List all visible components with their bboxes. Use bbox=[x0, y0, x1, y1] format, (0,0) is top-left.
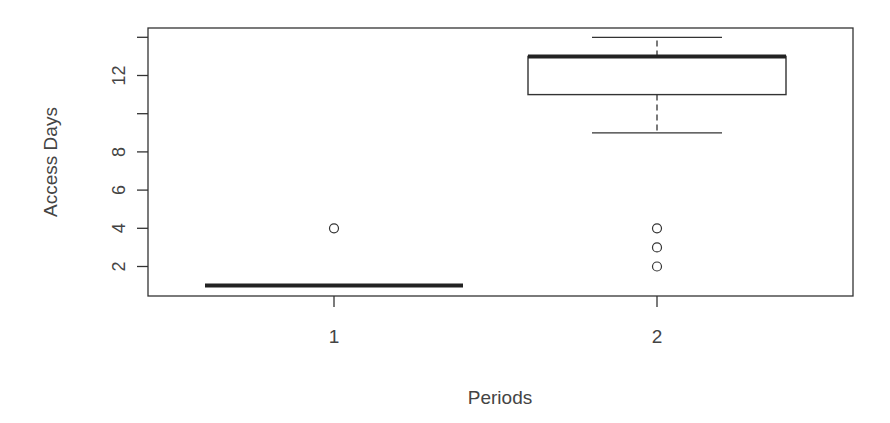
y-tick-label: 12 bbox=[109, 65, 129, 85]
boxplot-chart: 24681212 Periods Access Days bbox=[0, 0, 890, 423]
outlier-point bbox=[653, 224, 662, 233]
x-tick-label: 2 bbox=[652, 326, 663, 347]
x-axis-label: Periods bbox=[468, 387, 532, 408]
plot-area: 24681212 bbox=[109, 28, 853, 347]
y-tick-label: 6 bbox=[109, 185, 129, 195]
y-tick-label: 4 bbox=[109, 223, 129, 233]
outlier-point bbox=[653, 262, 662, 271]
y-axis-label: Access Days bbox=[40, 107, 61, 217]
y-tick-label: 8 bbox=[109, 147, 129, 157]
plot-frame bbox=[148, 28, 853, 296]
outlier-point bbox=[330, 224, 339, 233]
box bbox=[528, 56, 786, 94]
outlier-point bbox=[653, 243, 662, 252]
y-tick-label: 2 bbox=[109, 261, 129, 271]
x-tick-label: 1 bbox=[329, 326, 340, 347]
